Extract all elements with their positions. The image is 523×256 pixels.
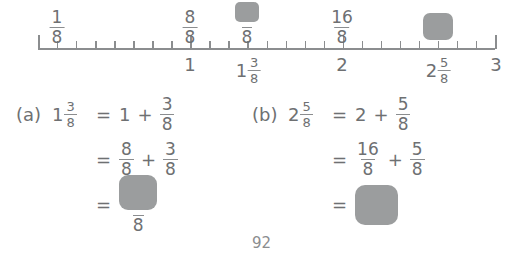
term-fraction: 5 8 — [396, 96, 411, 133]
term-fraction: 3 8 — [160, 96, 175, 133]
tick-minor — [133, 41, 134, 48]
equals-sign: = — [96, 196, 111, 214]
mixed-number: 1 3 8 — [236, 56, 261, 85]
numberline-value-2: 2 — [336, 56, 347, 74]
tick-major-0 — [38, 35, 40, 49]
example-a-lhs: 1 3 8 — [52, 100, 96, 129]
equals-sign: = — [332, 151, 347, 169]
tick-minor — [171, 41, 172, 48]
numberline-label-eight-eighths: 8 8 — [183, 9, 198, 46]
fraction-one-eighth: 1 8 — [50, 9, 65, 46]
equals-sign: = — [96, 151, 111, 169]
numberline-label-blank-over-eight: 8 — [235, 2, 259, 46]
worked-examples: (a) 1 3 8 = 1 + 3 8 = — [0, 92, 523, 232]
equals-sign: = — [96, 106, 111, 124]
number-line-diagram: 1 8 8 8 8 16 8 1 1 3 8 — [0, 0, 523, 92]
answer-blank-box[interactable] — [423, 13, 453, 40]
tick-minor — [400, 41, 401, 48]
tick-minor — [209, 41, 210, 48]
example-a-row-1: (a) 1 3 8 = 1 + 3 8 — [16, 92, 178, 137]
tick-major-3 — [495, 35, 497, 49]
numberline-value-1: 1 — [184, 56, 195, 74]
example-a-tag: (a) — [16, 106, 52, 124]
tick-minor — [457, 41, 458, 48]
tick-minor — [305, 41, 306, 48]
term-whole: 2 — [355, 106, 366, 124]
plus-sign: + — [138, 106, 153, 124]
tick-minor — [95, 41, 96, 48]
tick-minor — [362, 41, 363, 48]
numberline-label-blank-box[interactable] — [423, 13, 453, 44]
page-number: 92 — [0, 234, 523, 252]
example-b-row-3: = — [252, 182, 425, 227]
answer-blank-box[interactable] — [119, 175, 157, 215]
answer-blank-box[interactable] — [355, 185, 398, 225]
tick-minor — [324, 41, 325, 48]
numberline-value-3: 3 — [490, 56, 501, 74]
plus-sign: + — [388, 151, 403, 169]
fraction-sixteen-eighths: 16 8 — [329, 9, 355, 46]
tick-minor — [419, 41, 420, 48]
example-a-row-3: = 8 — [16, 182, 178, 227]
tick-minor — [228, 41, 229, 48]
numberline-label-sixteen-eighths: 16 8 — [329, 9, 355, 46]
answer-blank-box[interactable] — [235, 2, 259, 27]
example-b: (b) 2 5 8 = 2 + 5 8 = — [252, 92, 425, 227]
example-a: (a) 1 3 8 = 1 + 3 8 = — [16, 92, 178, 227]
example-b-lhs: 2 5 8 — [288, 100, 332, 129]
plus-sign: + — [374, 106, 389, 124]
mixed-number: 2 5 8 — [426, 56, 451, 85]
term-fraction: 3 8 — [163, 141, 178, 178]
fraction-eight-eighths: 8 8 — [183, 9, 198, 46]
plus-sign: + — [141, 151, 156, 169]
equals-sign: = — [332, 196, 347, 214]
example-b-row-2: = 16 8 + 5 8 — [252, 137, 425, 182]
example-b-tag: (b) — [252, 106, 288, 124]
blank-fraction[interactable]: 8 — [235, 2, 259, 46]
term-whole: 1 — [119, 106, 130, 124]
term-fraction: 5 8 — [410, 141, 425, 178]
term-fraction: 16 8 — [355, 141, 381, 178]
tick-minor — [286, 41, 287, 48]
tick-minor — [476, 41, 477, 48]
numberline-value-2-5-8: 2 5 8 — [426, 56, 451, 85]
equals-sign: = — [332, 106, 347, 124]
tick-minor — [76, 41, 77, 48]
tick-minor — [152, 41, 153, 48]
example-b-row-1: (b) 2 5 8 = 2 + 5 8 — [252, 92, 425, 137]
tick-minor — [114, 41, 115, 48]
numberline-label-one-eighth: 1 8 — [50, 9, 65, 46]
term-fraction: 8 8 — [119, 141, 134, 178]
tick-minor — [381, 41, 382, 48]
numberline-value-1-3-8: 1 3 8 — [236, 56, 261, 85]
answer-blank-fraction[interactable]: 8 — [119, 175, 157, 234]
tick-minor — [267, 41, 268, 48]
number-line-axis — [38, 48, 495, 50]
